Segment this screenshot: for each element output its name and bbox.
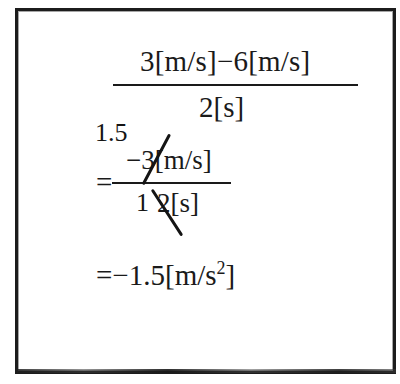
result-unit-open: [m/s bbox=[165, 259, 217, 291]
fraction-2-numerator: −3[m/s] bbox=[126, 147, 212, 174]
result-unit-close: ] bbox=[226, 259, 236, 291]
result-line: =−1.5[m/s2] bbox=[96, 261, 235, 290]
fraction-2-bar bbox=[112, 182, 231, 184]
scanned-worksheet-page: 3[m/s]−6[m/s] 2[s] = −3[m/s] 2[s] 1.5 1 … bbox=[0, 0, 400, 384]
fraction-1-bar bbox=[113, 84, 358, 86]
equals-sign-line-2: = bbox=[96, 168, 112, 197]
result-equals: = bbox=[96, 259, 112, 291]
handwritten-annotation-numerator-reduced: 1.5 bbox=[95, 120, 128, 146]
fraction-1-numerator: 3[m/s]−6[m/s] bbox=[140, 47, 310, 76]
handwritten-annotation-denominator-reduced: 1 bbox=[136, 190, 149, 216]
result-unit-exponent: 2 bbox=[217, 258, 226, 278]
result-value: −1.5 bbox=[112, 259, 165, 291]
fraction-1-denominator: 2[s] bbox=[199, 93, 244, 122]
